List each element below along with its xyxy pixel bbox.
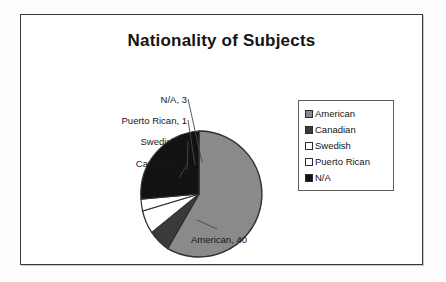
- legend-item-na: N/A: [305, 171, 388, 184]
- chart-title: Nationality of Subjects: [21, 31, 422, 51]
- legend-label-swedish: Swedish: [315, 140, 351, 151]
- data-label-canadian: Canadian, 2: [81, 158, 187, 169]
- data-label-american: American, 40: [191, 234, 301, 245]
- legend-item-american: American: [305, 107, 388, 120]
- pie-svg: [121, 129, 281, 282]
- legend-swatch-canadian: [305, 126, 313, 134]
- legend-label-american: American: [315, 108, 355, 119]
- pie-chart: [121, 129, 281, 282]
- data-label-swedish: Swedish, 2: [89, 136, 187, 147]
- legend-item-swedish: Swedish: [305, 139, 388, 152]
- legend-label-canadian: Canadian: [315, 124, 356, 135]
- legend-swatch-puerto-rican: [305, 158, 313, 166]
- legend-item-puerto-rican: Puerto Rican: [305, 155, 388, 168]
- data-label-puerto-rican: Puerto Rican, 1: [75, 115, 187, 126]
- legend-swatch-american: [305, 110, 313, 118]
- chart-legend: American Canadian Swedish Puerto Rican N…: [298, 100, 394, 191]
- data-label-na: N/A, 3: [125, 94, 187, 105]
- chart-frame: Nationality of Subjects N/A, 3 Puerto Ri…: [20, 14, 423, 265]
- legend-item-canadian: Canadian: [305, 123, 388, 136]
- legend-swatch-swedish: [305, 142, 313, 150]
- legend-label-puerto-rican: Puerto Rican: [315, 156, 370, 167]
- legend-label-na: N/A: [315, 172, 331, 183]
- legend-swatch-na: [305, 174, 313, 182]
